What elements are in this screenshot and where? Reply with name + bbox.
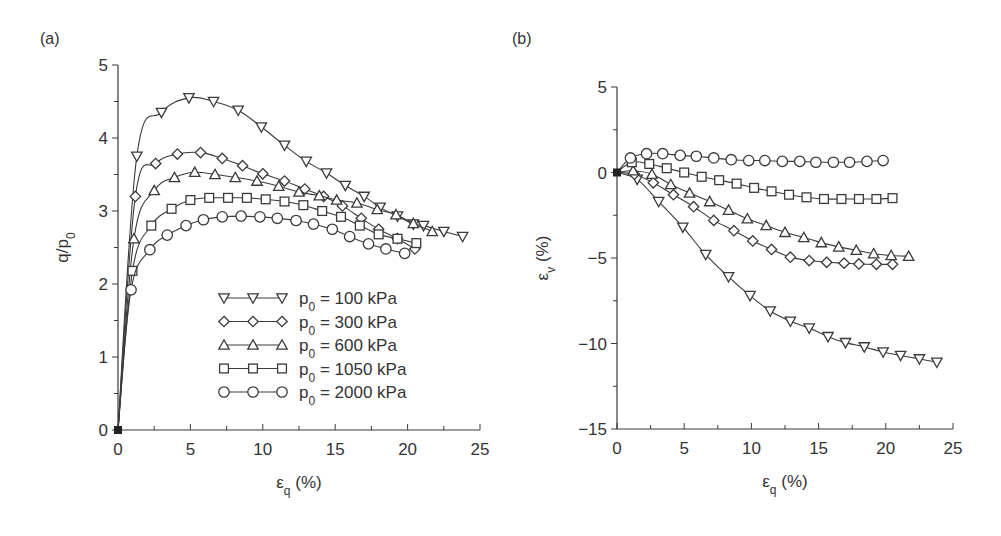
triangle-up-marker bbox=[723, 205, 733, 214]
circle-marker bbox=[811, 157, 821, 167]
series-p0-100-kpa bbox=[118, 94, 468, 430]
triangle-down-marker bbox=[359, 192, 369, 201]
circle-marker bbox=[878, 155, 888, 165]
circle-marker bbox=[344, 231, 354, 241]
square-marker bbox=[355, 221, 364, 230]
x-tick-label: 20 bbox=[876, 439, 895, 458]
diamond-marker bbox=[887, 259, 897, 269]
diamond-marker bbox=[709, 215, 719, 225]
legend-item: p0 = 1050 kPa bbox=[220, 360, 407, 385]
legend: p0 = 100 kPap0 = 300 kPap0 = 600 kPap0 =… bbox=[219, 289, 407, 408]
panel-a-label: (a) bbox=[40, 30, 60, 47]
circle-marker bbox=[726, 154, 736, 164]
triangle-down-marker bbox=[321, 169, 331, 178]
square-marker bbox=[785, 190, 794, 199]
square-marker bbox=[715, 176, 724, 185]
circle-marker bbox=[255, 212, 265, 222]
square-marker bbox=[205, 193, 214, 202]
legend-item: p0 = 600 kPa bbox=[219, 336, 398, 361]
triangle-down-marker bbox=[340, 181, 350, 190]
square-marker bbox=[374, 230, 383, 239]
series-line bbox=[118, 97, 463, 430]
diamond-marker bbox=[219, 316, 229, 326]
y-tick-label: 2 bbox=[99, 275, 108, 294]
panel-b-label: (b) bbox=[512, 30, 532, 47]
legend-item: p0 = 300 kPa bbox=[219, 313, 398, 338]
square-marker bbox=[750, 183, 759, 192]
triangle-up-marker bbox=[647, 169, 657, 178]
origin-marker bbox=[114, 426, 122, 434]
square-marker bbox=[820, 195, 829, 204]
square-marker bbox=[249, 364, 258, 373]
x-tick-label: 25 bbox=[471, 440, 490, 459]
circle-marker bbox=[828, 157, 838, 167]
triangle-down-marker bbox=[745, 291, 755, 300]
x-axis-label: εq (%) bbox=[762, 472, 807, 497]
circle-marker bbox=[709, 153, 719, 163]
circle-marker bbox=[126, 285, 136, 295]
circle-marker bbox=[162, 230, 172, 240]
y-tick-label: 1 bbox=[99, 348, 108, 367]
square-marker bbox=[278, 364, 287, 373]
square-marker bbox=[337, 212, 346, 221]
x-tick-label: 5 bbox=[186, 440, 195, 459]
y-tick-label: 3 bbox=[99, 202, 108, 221]
diamond-marker bbox=[729, 225, 739, 235]
y-axis-label: εv (%) bbox=[533, 236, 558, 281]
triangle-up-marker bbox=[761, 220, 771, 229]
square-marker bbox=[888, 194, 897, 203]
circle-marker bbox=[657, 148, 667, 158]
square-marker bbox=[280, 197, 289, 206]
triangle-up-marker bbox=[149, 185, 159, 194]
square-marker bbox=[299, 201, 308, 210]
diamond-marker bbox=[854, 259, 864, 269]
x-tick-label: 5 bbox=[679, 439, 688, 458]
x-tick-label: 25 bbox=[944, 439, 963, 458]
diamond-marker bbox=[839, 258, 849, 268]
diamond-marker bbox=[248, 316, 258, 326]
chart-panel-b: 0510152025−15−10−505εq (%)εv (%) bbox=[533, 78, 962, 497]
square-marker bbox=[872, 195, 881, 204]
square-marker bbox=[220, 364, 229, 373]
diamond-marker bbox=[258, 169, 268, 179]
square-marker bbox=[837, 195, 846, 204]
circle-marker bbox=[236, 211, 246, 221]
square-marker bbox=[412, 239, 421, 248]
x-tick-label: 20 bbox=[398, 440, 417, 459]
diamond-marker bbox=[217, 153, 227, 163]
legend-item: p0 = 100 kPa bbox=[219, 289, 398, 314]
legend-label: p0 = 100 kPa bbox=[299, 289, 397, 314]
diamond-marker bbox=[766, 244, 776, 254]
y-axis-label: q/p0 bbox=[53, 232, 78, 263]
square-marker bbox=[855, 195, 864, 204]
circle-marker bbox=[272, 213, 282, 223]
y-tick-label: −5 bbox=[588, 249, 607, 268]
circle-marker bbox=[181, 220, 191, 230]
triangle-down-marker bbox=[156, 108, 166, 117]
legend-label: p0 = 300 kPa bbox=[299, 313, 397, 338]
figure: (a) (b) 0510152025012345εq (%)q/p0p0 = 1… bbox=[0, 0, 1001, 536]
diamond-marker bbox=[277, 316, 287, 326]
diamond-marker bbox=[195, 147, 205, 157]
square-marker bbox=[802, 193, 811, 202]
circle-marker bbox=[308, 219, 318, 229]
square-marker bbox=[186, 196, 195, 205]
circle-marker bbox=[248, 387, 258, 397]
x-tick-label: 0 bbox=[612, 439, 621, 458]
x-tick-label: 15 bbox=[809, 439, 828, 458]
square-marker bbox=[680, 168, 689, 177]
circle-marker bbox=[400, 248, 410, 258]
square-marker bbox=[732, 179, 741, 188]
diamond-marker bbox=[871, 259, 881, 269]
square-marker bbox=[261, 195, 270, 204]
series-line bbox=[617, 171, 909, 257]
triangle-down-marker bbox=[279, 141, 289, 150]
circle-marker bbox=[291, 215, 301, 225]
square-marker bbox=[147, 221, 156, 230]
square-marker bbox=[224, 193, 233, 202]
diamond-marker bbox=[172, 149, 182, 159]
triangle-up-marker bbox=[169, 172, 179, 181]
y-tick-label: 5 bbox=[598, 78, 607, 97]
x-tick-label: 10 bbox=[253, 440, 272, 459]
diamond-marker bbox=[130, 191, 140, 201]
